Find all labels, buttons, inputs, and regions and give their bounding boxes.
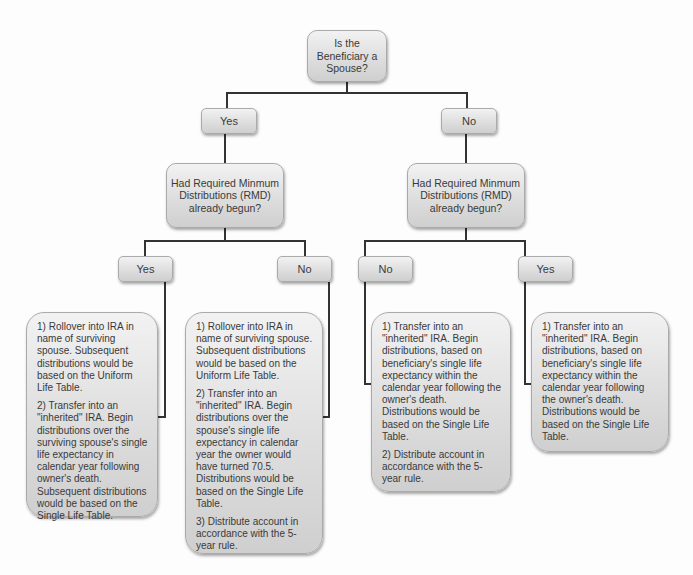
label-text: No <box>297 263 311 276</box>
root-question-text: Is the Beneficiary a Spouse? <box>308 37 386 75</box>
connector <box>465 133 467 165</box>
outcome-spouse-rmd-yes: 1) Rollover into IRA in name of survivin… <box>26 312 158 517</box>
label-text: Yes <box>137 263 155 276</box>
rmd-question-node-nonspouse: Had Required Minmum Distributions (RMD) … <box>407 163 525 228</box>
outcome-spouse-rmd-no: 1) Rollover into IRA in name of survivin… <box>185 312 323 554</box>
connector <box>224 133 226 165</box>
connector <box>328 282 330 417</box>
outcome-option-2: 2) Transfer into an "inherited" IRA. Beg… <box>37 400 149 522</box>
connector <box>144 240 146 256</box>
connector <box>364 240 366 256</box>
connector <box>304 240 306 256</box>
outcome-option-1: 1) Transfer into an "inherited" IRA. Beg… <box>382 321 502 443</box>
nonspouse-rmd-no-label: No <box>358 256 413 282</box>
nonspouse-rmd-yes-label: Yes <box>518 256 573 282</box>
label-text: Yes <box>537 263 555 276</box>
outcome-option-1: 1) Rollover into IRA in name of survivin… <box>196 321 314 382</box>
outcome-option-2: 2) Transfer into an "inherited" IRA. Beg… <box>196 388 314 510</box>
connector <box>364 240 526 242</box>
connector <box>224 227 226 241</box>
spouse-yes-label: Yes <box>201 108 257 134</box>
spouse-rmd-no-label: No <box>277 256 332 282</box>
connector <box>465 227 467 241</box>
outcome-nonspouse-rmd-yes: 1) Transfer into an "inherited" IRA. Beg… <box>531 312 669 452</box>
connector <box>364 282 366 385</box>
connector <box>524 282 526 385</box>
outcome-option-2: 2) Distribute account in accordance with… <box>382 449 502 486</box>
outcome-option-3: 3) Distribute account in accordance with… <box>196 516 314 553</box>
connector <box>144 240 306 242</box>
connector <box>164 282 166 417</box>
connector <box>226 92 468 94</box>
question-text: Had Required Minmum Distributions (RMD) … <box>171 177 279 215</box>
root-question-node: Is the Beneficiary a Spouse? <box>307 30 387 82</box>
question-text: Had Required Minmum Distributions (RMD) … <box>412 177 520 215</box>
spouse-no-label: No <box>441 108 497 134</box>
outcome-option-1: 1) Transfer into an "inherited" IRA. Beg… <box>542 321 660 443</box>
outcome-option-1: 1) Rollover into IRA in name of survivin… <box>37 321 149 394</box>
label-text: No <box>462 115 476 128</box>
spouse-rmd-yes-label: Yes <box>118 256 173 282</box>
label-text: Yes <box>220 115 238 128</box>
outcome-nonspouse-rmd-no: 1) Transfer into an "inherited" IRA. Beg… <box>371 312 511 492</box>
rmd-question-node-spouse: Had Required Minmum Distributions (RMD) … <box>166 163 284 228</box>
label-text: No <box>378 263 392 276</box>
connector <box>524 240 526 256</box>
